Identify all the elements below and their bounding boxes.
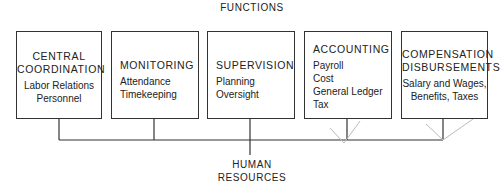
box-supervision: SUPERVISION Planning Oversight (207, 31, 295, 119)
box-items: Planning Oversight (216, 75, 294, 101)
box-items: Attendance Timekeeping (120, 75, 198, 101)
box-central-coordination: CENTRAL COORDINATION Labor Relations Per… (16, 31, 102, 119)
box-monitoring: MONITORING Attendance Timekeeping (111, 31, 199, 119)
box-heading: CENTRAL COORDINATION (17, 50, 101, 76)
box-items: Labor Relations Personnel (17, 79, 101, 105)
box-heading: SUPERVISION (216, 59, 294, 72)
box-accounting: ACCOUNTING Payroll Cost General Ledger T… (304, 31, 392, 119)
box-compensation-disbursements: COMPENSATION DISBURSEMENTS Salary and Wa… (401, 31, 488, 119)
box-items: Payroll Cost General Ledger Tax (313, 59, 391, 111)
root-node-label: HUMAN RESOURCES (0, 158, 504, 184)
box-items: Salary and Wages, Benefits, Taxes (402, 77, 487, 103)
box-heading: COMPENSATION DISBURSEMENTS (402, 48, 487, 74)
box-heading: ACCOUNTING (313, 43, 391, 56)
box-heading: MONITORING (120, 59, 198, 72)
